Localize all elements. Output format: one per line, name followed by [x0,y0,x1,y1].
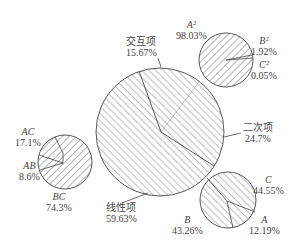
label-linear-name: 线性项 [106,202,137,213]
label-a2-name: A² [176,19,207,30]
label-b-name: B [172,214,203,225]
label-ab: AB 8.6% [19,160,40,182]
label-quadratic-name: 二次项 [243,122,273,133]
label-ab-value: 8.6% [19,171,40,182]
label-ab-name: AB [19,160,40,171]
label-b: B 43.26% [172,214,203,236]
leader-quadratic [224,133,241,137]
label-bc-name: BC [46,191,72,202]
label-c2: C² 0.05% [251,59,277,81]
interaction-pie [38,135,92,189]
label-c2-value: 0.05% [251,70,277,81]
label-c-name: C [253,174,284,185]
label-c2-name: C² [251,59,277,70]
label-bc-value: 74.3% [46,202,72,213]
label-a2: A² 98.03% [176,19,207,41]
label-interaction-value: 15.67% [126,47,157,58]
label-c: C 44.55% [253,174,284,196]
label-bc: BC 74.3% [46,191,72,213]
label-quadratic-value: 24.7% [243,133,273,144]
label-linear-value: 59.63% [106,213,137,224]
label-ac-value: 17.1% [15,137,41,148]
label-a: A 12.19% [249,214,280,236]
label-quadratic: 二次项 24.7% [243,122,273,144]
leader-interaction [158,58,161,67]
label-b2: B² 1.92% [251,35,277,57]
label-b2-name: B² [251,35,277,46]
label-b2-value: 1.92% [251,46,277,57]
label-b-value: 43.26% [172,225,203,236]
label-ac-name: AC [15,126,41,137]
quadratic-pie [199,33,253,87]
label-a-value: 12.19% [249,225,280,236]
label-interaction-name: 交互项 [126,36,157,47]
label-a2-value: 98.03% [176,30,207,41]
label-c-value: 44.55% [253,185,284,196]
main-pie [96,68,224,196]
linear-pie [200,172,256,228]
label-interaction: 交互项 15.67% [126,36,157,58]
label-linear: 线性项 59.63% [106,202,137,224]
label-ac: AC 17.1% [15,126,41,148]
label-a-name: A [249,214,280,225]
